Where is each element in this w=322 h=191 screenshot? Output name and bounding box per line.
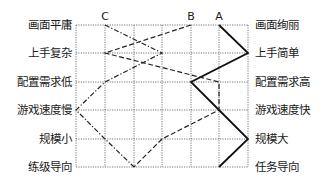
left-label-scale: 规模小 xyxy=(39,132,72,146)
left-label-learning: 上手复杂 xyxy=(28,46,72,60)
right-label-speed: 游戏速度快 xyxy=(255,103,310,117)
left-label-requirements: 配置需求低 xyxy=(17,75,72,89)
grid-lines xyxy=(76,25,248,167)
series-line-c xyxy=(76,25,162,167)
left-label-graphics: 画面平庸 xyxy=(28,18,72,32)
series-letter-b: B xyxy=(187,11,195,23)
right-label-graphics: 画面绚丽 xyxy=(255,18,299,32)
left-label-speed: 游戏速度慢 xyxy=(17,103,72,117)
series-letter-c: C xyxy=(101,11,109,23)
right-label-learning: 上手简单 xyxy=(255,46,299,60)
left-label-orientation: 练级导向 xyxy=(28,160,72,174)
series-letter-a: A xyxy=(215,11,223,23)
right-label-scale: 规模大 xyxy=(255,132,288,146)
right-label-orientation: 任务导向 xyxy=(255,160,299,174)
right-label-requirements: 配置需求高 xyxy=(255,75,310,89)
